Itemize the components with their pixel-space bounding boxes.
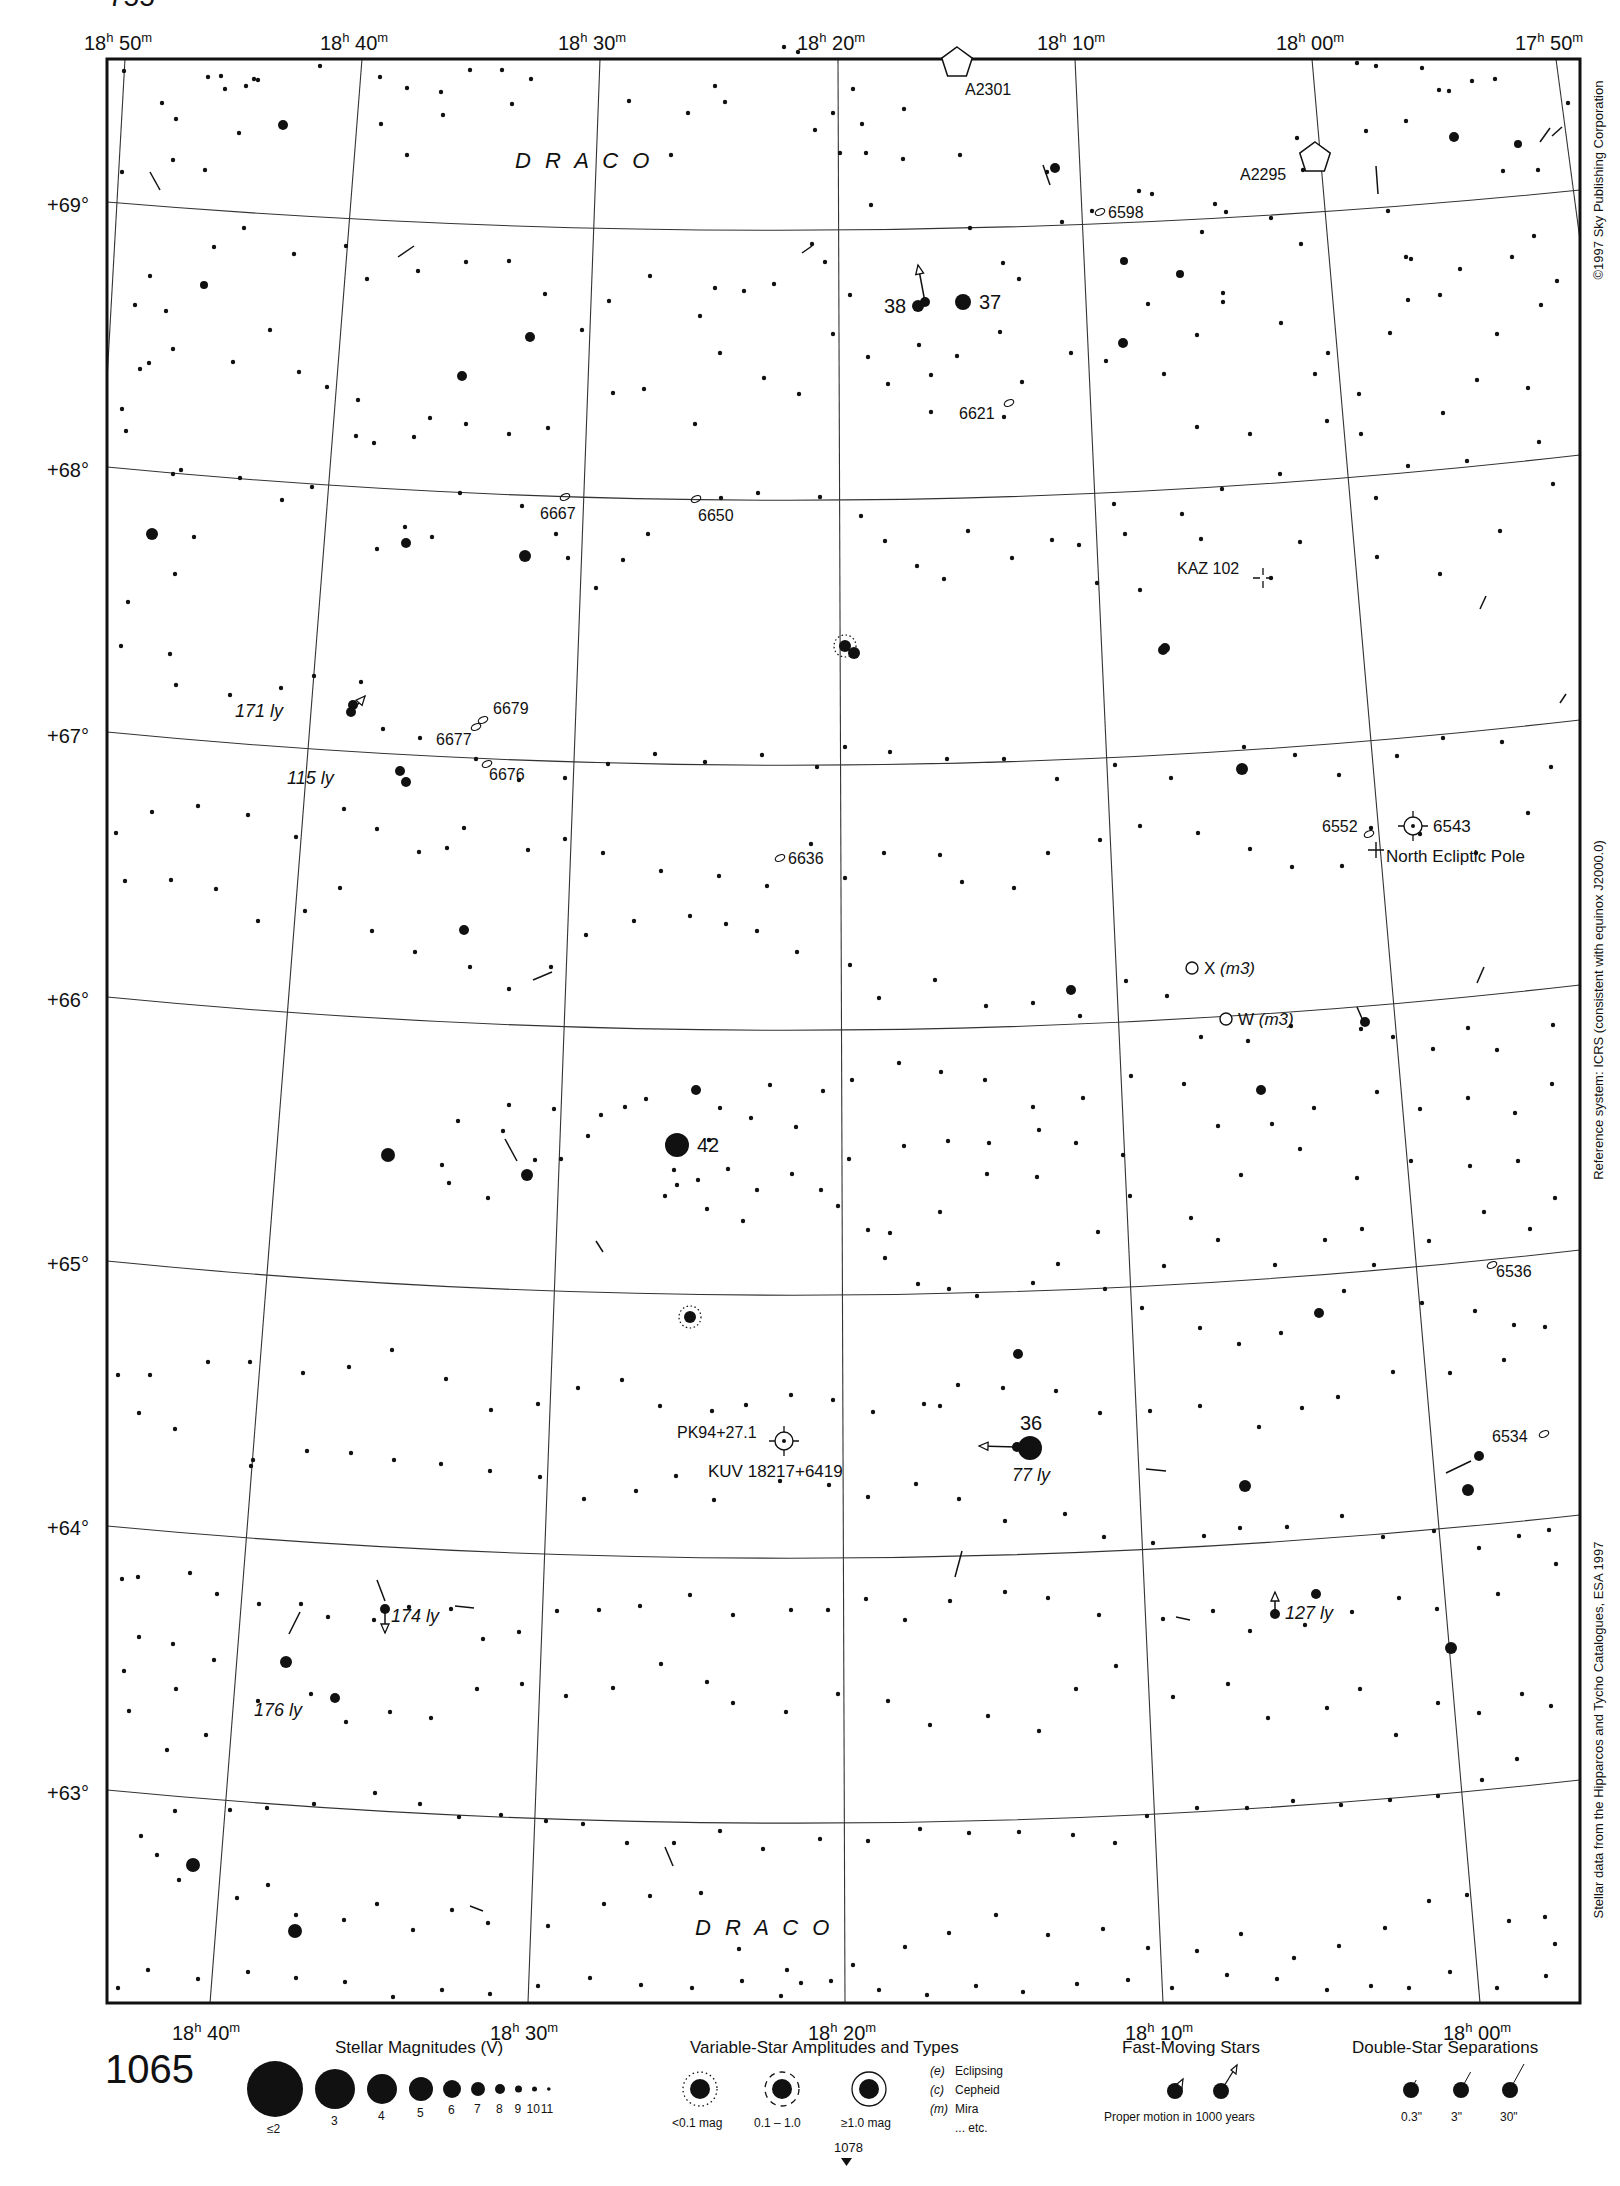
star	[1340, 1514, 1344, 1518]
data-source-note: Stellar data from the Hipparcos and Tych…	[1591, 1542, 1606, 1919]
star	[1037, 1729, 1041, 1733]
distance-label: 127 ly	[1285, 1603, 1334, 1623]
star	[1299, 242, 1303, 246]
star	[986, 1714, 990, 1718]
star	[871, 1410, 875, 1414]
star	[312, 1802, 316, 1806]
star	[958, 153, 962, 157]
star	[1055, 777, 1059, 781]
star	[546, 426, 550, 430]
star	[1465, 1893, 1469, 1897]
star	[1102, 1535, 1106, 1539]
star	[1213, 202, 1217, 206]
magnitude-swatch	[443, 2080, 461, 2098]
star	[836, 1204, 840, 1208]
star	[249, 1464, 253, 1468]
star	[1123, 532, 1127, 536]
star	[1409, 257, 1413, 261]
star	[1383, 1926, 1387, 1930]
star	[755, 1188, 759, 1192]
separation-label: 3"	[1451, 2110, 1462, 2124]
star	[510, 102, 514, 106]
quasar-icon	[1253, 568, 1273, 588]
star	[1161, 1617, 1165, 1621]
star	[1071, 1833, 1075, 1837]
proper-motion-tick	[289, 1612, 300, 1634]
star	[602, 1902, 606, 1906]
star	[1470, 79, 1474, 83]
star	[1386, 209, 1390, 213]
star	[554, 532, 558, 536]
star	[1441, 736, 1445, 740]
legend-caption: Proper motion in 1000 years	[1104, 2110, 1255, 2124]
star	[984, 1004, 988, 1008]
star	[1458, 267, 1462, 271]
star	[1128, 1194, 1132, 1198]
double-star-swatch	[1453, 2082, 1469, 2098]
star	[1098, 838, 1102, 842]
star	[464, 260, 468, 264]
star	[1498, 529, 1502, 533]
star	[1364, 129, 1368, 133]
star	[799, 1981, 803, 1985]
star	[827, 1483, 831, 1487]
star	[761, 1847, 765, 1851]
star	[536, 1402, 540, 1406]
star	[915, 564, 919, 568]
star	[474, 757, 478, 761]
ra-label: 18h 40m	[320, 30, 388, 54]
side-notes: ©1997 Sky Publishing CorporationReferenc…	[1591, 81, 1606, 1919]
star	[975, 1294, 979, 1298]
star	[929, 373, 933, 377]
star	[1295, 136, 1299, 140]
star	[836, 1692, 840, 1696]
star	[860, 122, 864, 126]
star	[1182, 1082, 1186, 1086]
star	[464, 422, 468, 426]
star	[581, 1822, 585, 1826]
galaxy-cluster-icon	[942, 47, 972, 76]
star	[1096, 1230, 1100, 1234]
separation-tick	[1513, 2064, 1524, 2084]
ra-meridian	[528, 59, 600, 2003]
star	[611, 1686, 615, 1690]
star	[653, 752, 657, 756]
star	[1239, 1173, 1243, 1177]
star	[388, 1710, 392, 1714]
separation-tick	[1464, 2072, 1471, 2084]
star	[1512, 1323, 1516, 1327]
star	[440, 1163, 444, 1167]
top-partial-label: 755	[108, 0, 155, 12]
star	[248, 1360, 252, 1364]
star	[998, 330, 1002, 334]
star	[174, 683, 178, 687]
star	[1292, 1956, 1296, 1960]
star	[672, 1168, 676, 1172]
star	[1162, 372, 1166, 376]
star	[137, 1411, 141, 1415]
star	[712, 1498, 716, 1502]
arrowhead-icon	[1271, 1592, 1279, 1601]
star	[705, 1207, 709, 1211]
variable-swatch	[772, 2079, 792, 2099]
star	[1291, 1799, 1295, 1803]
star	[1420, 66, 1424, 70]
star	[549, 965, 553, 969]
star	[1121, 1153, 1125, 1157]
star	[1074, 1141, 1078, 1145]
star	[256, 78, 260, 82]
star	[381, 727, 385, 731]
star	[120, 170, 124, 174]
star	[219, 74, 223, 78]
star	[1285, 1525, 1289, 1529]
star	[1482, 1210, 1486, 1214]
star	[582, 1497, 586, 1501]
star	[947, 1931, 951, 1935]
star	[699, 1891, 703, 1895]
star	[215, 1592, 219, 1596]
star	[155, 1853, 159, 1857]
star-label: 36	[1020, 1412, 1042, 1434]
star	[1145, 1814, 1149, 1818]
fast-moving-star	[395, 766, 405, 776]
named-star	[955, 294, 971, 310]
